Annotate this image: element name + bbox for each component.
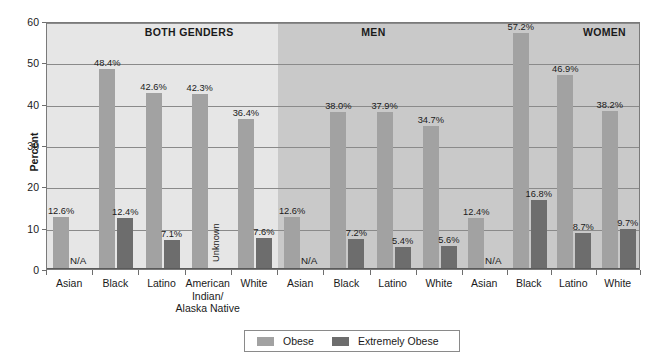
x-tick-mark [462,270,463,275]
bar-value-label: 12.6% [279,206,305,216]
x-tick-mark [551,270,552,275]
bar-value-label: 16.8% [526,189,552,199]
bar-value-label: 38.2% [597,100,623,110]
bar-obese [423,126,439,269]
plot-area [46,22,640,270]
x-tick-mark [416,270,417,275]
bar-obese [238,119,254,269]
y-tick-label: 0 [15,264,39,276]
bar-value-label: 5.6% [438,235,459,245]
bar-obese [146,93,162,269]
x-tick-mark [596,270,597,275]
x-tick-mark [277,270,278,275]
bar-extremely-obese [620,229,636,269]
x-tick-mark [138,270,139,275]
bar-obese [377,112,393,269]
bar-extremely-obese [256,238,272,269]
bar-value-label: 42.6% [140,82,166,92]
x-tick-mark [231,270,232,275]
band-title: MEN [361,26,385,38]
bar-obese [53,217,69,269]
bar-value-label: 48.4% [94,58,120,68]
bar-value-label: 36.4% [233,108,259,118]
legend-label: Obese [283,335,314,347]
band-title: WOMEN [583,26,626,38]
bar-extremely-obese [531,200,547,269]
bar-value-label: 37.9% [371,101,397,111]
y-tick-label: 50 [15,57,39,69]
y-tick-label: 60 [15,16,39,28]
bar-value-label: 7.2% [346,228,367,238]
bar-obese [602,111,618,269]
x-category-label: White [425,277,452,290]
bar-value-label: 12.4% [112,207,138,217]
x-tick-mark [323,270,324,275]
obesity-bar-chart: Percent 0102030405060 BOTH GENDERS12.6%N… [0,0,651,358]
bar-value-label: 57.2% [508,22,534,32]
bar-obese [557,75,573,269]
bar-value-label: 38.0% [325,101,351,111]
bar-na-label: N/A [301,255,317,266]
y-axis-title: Percent [28,112,40,192]
legend-swatch [257,337,274,346]
x-category-label: Asian [471,277,497,290]
x-tick-mark [92,270,93,275]
x-tick-mark [507,270,508,275]
legend-swatch [332,337,349,346]
y-tick-label: 20 [15,181,39,193]
x-tick-mark [46,270,47,275]
x-category-label: AmericanIndian/Alaska Native [172,277,244,315]
x-tick-mark [640,270,641,275]
bar-na-label: N/A [485,255,501,266]
x-tick-mark [370,270,371,275]
bar-value-label: 5.4% [392,236,413,246]
y-tick-label: 40 [15,99,39,111]
bar-value-label: 12.4% [463,207,489,217]
bar-extremely-obese [575,233,591,269]
bar-unknown-label: Unknown [211,223,221,262]
bar-value-label: 7.1% [161,229,182,239]
x-category-label: Black [102,277,128,290]
band-title: BOTH GENDERS [145,26,234,38]
bar-value-label: 46.9% [552,64,578,74]
chart-legend: ObeseExtremely Obese [244,330,460,352]
bar-value-label: 8.7% [573,222,594,232]
x-category-label: Latino [378,277,407,290]
bar-obese [192,94,208,269]
bar-obese [513,33,529,269]
bar-value-label: 12.6% [48,206,74,216]
x-category-label: Black [334,277,360,290]
x-category-label: White [604,277,631,290]
x-category-label: Latino [559,277,588,290]
x-tick-mark [185,270,186,275]
x-category-label: Asian [56,277,82,290]
legend-label: Extremely Obese [358,335,439,347]
bar-extremely-obese [117,218,133,269]
bar-obese [468,218,484,269]
bar-extremely-obese [164,240,180,269]
bar-value-label: 42.3% [187,83,213,93]
bar-na-label: N/A [70,255,86,266]
bar-obese [99,69,115,269]
bar-obese [284,217,300,269]
gridline [47,23,639,24]
bar-extremely-obese [395,247,411,269]
bar-extremely-obese [441,246,457,269]
bar-extremely-obese [348,239,364,269]
x-category-label: Asian [287,277,313,290]
y-tick-label: 10 [15,223,39,235]
bar-value-label: 34.7% [418,115,444,125]
bar-value-label: 9.7% [617,218,638,228]
x-category-label: Black [516,277,542,290]
y-tick-label: 30 [15,140,39,152]
axis-baseline [47,268,639,269]
bar-obese [330,112,346,269]
x-category-label: White [240,277,267,290]
gridline [47,64,639,65]
bar-value-label: 7.6% [253,227,274,237]
